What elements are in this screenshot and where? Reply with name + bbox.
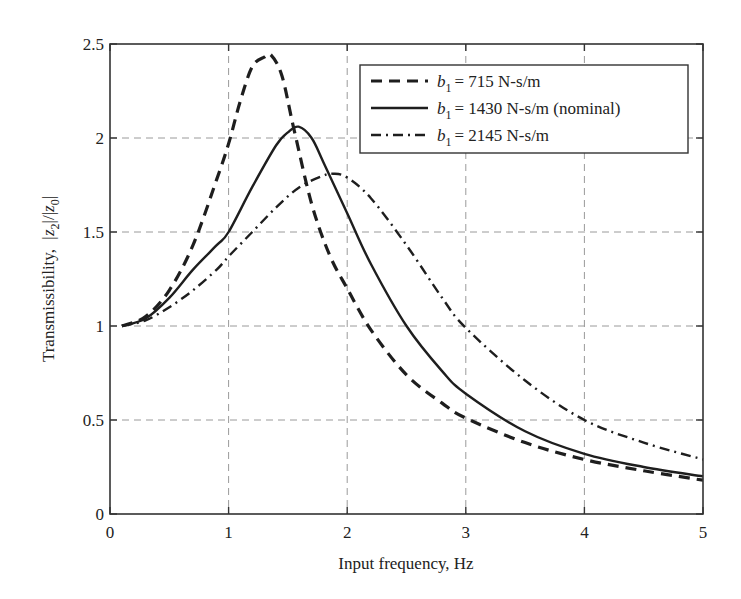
- y-axis-label-prefix: Transmissibility,: [39, 249, 58, 362]
- x-tick-label: 0: [106, 523, 115, 542]
- svg-text:Transmissibility, |z2|/|: Transmissibility, |z2|/|z0|: [39, 196, 62, 362]
- y-tick-label: 0: [96, 505, 105, 524]
- y-axis-label-expr: |z: [39, 229, 58, 241]
- series-line-solid: [122, 127, 703, 477]
- y-tick-label: 1: [96, 317, 105, 336]
- x-tick-label: 5: [699, 523, 708, 542]
- y-axis-label: Transmissibility, |z2|/|z0|: [39, 196, 62, 362]
- y-tick-label: 2: [96, 129, 105, 148]
- x-axis-label: Input frequency, Hz: [338, 554, 474, 573]
- legend: b1= 715 N-s/mb1= 1430 N-s/m (nominal)b1=…: [360, 65, 688, 153]
- x-tick-label: 4: [580, 523, 589, 542]
- x-tick-labels: 012345: [106, 523, 708, 542]
- transmissibility-chart: 012345 00.511.522.5 Input frequency, Hz …: [0, 0, 741, 599]
- x-tick-label: 3: [462, 523, 471, 542]
- x-tick-label: 2: [343, 523, 352, 542]
- y-tick-label: 2.5: [83, 35, 104, 54]
- y-tick-labels: 00.511.522.5: [83, 35, 104, 524]
- y-tick-label: 0.5: [83, 411, 104, 430]
- y-tick-label: 1.5: [83, 223, 104, 242]
- x-tick-label: 1: [224, 523, 233, 542]
- series-line-dashdot: [122, 174, 703, 460]
